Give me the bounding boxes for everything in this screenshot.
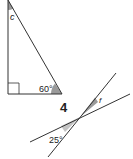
right-angle-marker xyxy=(8,83,19,94)
angle-60-label: 60° xyxy=(39,84,53,94)
line-shallow xyxy=(30,94,130,142)
figure-number: 4 xyxy=(60,100,68,115)
angle-c-label: c xyxy=(10,12,15,22)
geometry-diagram: c 60° 4 f 25° xyxy=(0,0,133,159)
triangle-outline xyxy=(8,0,62,94)
angle-f-label: f xyxy=(99,96,102,105)
angle-25-label: 25° xyxy=(49,135,63,145)
right-triangle: c 60° xyxy=(8,0,62,94)
